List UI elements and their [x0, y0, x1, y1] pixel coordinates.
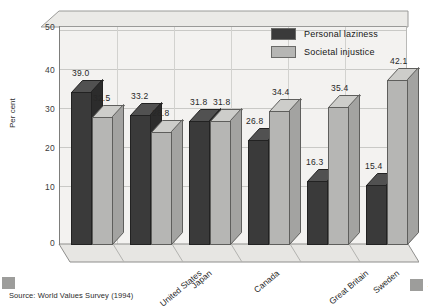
y-axis-title: Per cent	[8, 98, 17, 128]
vertical-gridline-2	[174, 27, 175, 244]
gridline-30	[60, 108, 406, 109]
y-axis-line	[59, 26, 60, 245]
category-label-sweden: Sweden	[371, 268, 401, 295]
plot-floor-face	[41, 242, 419, 264]
vertical-gridline-3	[231, 27, 232, 244]
category-label-canada: Canada	[252, 268, 281, 295]
bar-side-face	[407, 67, 420, 245]
decorative-corner-square-right	[410, 279, 423, 291]
vertical-gridline-1	[117, 27, 118, 244]
chart-screenshot: 50 40 30 20 10 0 Per cent 39.0	[0, 0, 428, 306]
y-tick-label-10: 10	[15, 182, 55, 192]
y-tick-label-30: 30	[15, 104, 55, 114]
legend-item-societal-injustice[interactable]: Societal injustice	[271, 44, 407, 59]
y-tick-label-40: 40	[15, 65, 55, 75]
chart-legend: Personal laziness Societal injustice	[271, 26, 407, 62]
y-tick-label-50: 50	[15, 22, 55, 32]
legend-swatch-personal-laziness	[271, 28, 296, 40]
source-note: Source: World Values Survey (1994)	[9, 291, 133, 300]
legend-swatch-societal-injustice	[271, 46, 296, 58]
gridline-20	[60, 147, 406, 148]
y-tick-label-0: 0	[15, 238, 55, 248]
gridline-40	[60, 69, 406, 70]
legend-label-societal-injustice: Societal injustice	[304, 47, 375, 57]
category-label-great-britain: Great Britain	[327, 268, 370, 306]
legend-label-personal-laziness: Personal laziness	[304, 29, 378, 39]
gridline-10	[60, 186, 406, 187]
chart-plot-frame: 50 40 30 20 10 0 Per cent 39.0	[41, 10, 419, 266]
y-tick-label-20: 20	[15, 143, 55, 153]
legend-item-personal-laziness[interactable]: Personal laziness	[271, 26, 407, 41]
decorative-corner-square-left	[2, 277, 15, 289]
